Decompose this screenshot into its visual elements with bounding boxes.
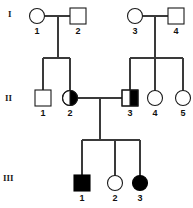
female-circle-symbol[interactable]	[176, 91, 191, 106]
individual-III-3[interactable]: 3	[133, 176, 148, 204]
pedigree-chart: I II III 1 2 3 4 1	[0, 0, 193, 208]
female-circle-affected-symbol[interactable]	[133, 176, 148, 191]
individual-I-2[interactable]: 2	[70, 8, 86, 36]
carrier-half-fill	[130, 90, 138, 106]
individual-id-label: 1	[40, 108, 45, 118]
individual-id-label: 4	[152, 108, 157, 118]
individual-III-1[interactable]: 1	[74, 175, 90, 203]
pedigree-canvas: I II III 1 2 3 4 1	[0, 0, 193, 208]
male-square-symbol[interactable]	[35, 90, 51, 106]
generation-label-II: II	[5, 93, 13, 103]
male-square-symbol[interactable]	[168, 8, 184, 24]
individual-id-label: 1	[79, 193, 84, 203]
carrier-half-fill	[70, 91, 78, 106]
individual-II-2[interactable]: 2	[63, 91, 78, 119]
individual-I-1[interactable]: 1	[30, 9, 45, 37]
individual-id-label: 5	[180, 108, 185, 118]
female-circle-symbol[interactable]	[30, 9, 45, 24]
individual-I-4[interactable]: 4	[168, 8, 184, 36]
individual-III-2[interactable]: 2	[108, 176, 123, 204]
individual-id-label: 2	[112, 193, 117, 203]
individual-id-label: 3	[137, 193, 142, 203]
generation-label-I: I	[8, 9, 12, 19]
female-circle-symbol[interactable]	[148, 91, 163, 106]
male-square-symbol[interactable]	[70, 8, 86, 24]
generation-labels: I II III	[3, 9, 14, 183]
male-square-affected-symbol[interactable]	[74, 175, 90, 191]
individual-id-label: 1	[34, 26, 39, 36]
individual-id-label: 2	[67, 108, 72, 118]
individual-id-label: 3	[127, 108, 132, 118]
individual-II-1[interactable]: 1	[35, 90, 51, 118]
individual-II-4[interactable]: 4	[148, 91, 163, 119]
female-circle-symbol[interactable]	[108, 176, 123, 191]
individual-I-3[interactable]: 3	[128, 9, 143, 37]
individual-II-3[interactable]: 3	[122, 90, 138, 118]
individual-II-5[interactable]: 5	[176, 91, 191, 119]
individual-id-label: 3	[132, 26, 137, 36]
individual-id-label: 2	[75, 26, 80, 36]
generation-label-III: III	[3, 173, 14, 183]
female-circle-symbol[interactable]	[128, 9, 143, 24]
individual-id-label: 4	[173, 26, 178, 36]
